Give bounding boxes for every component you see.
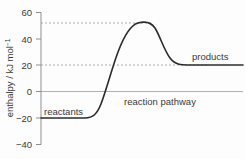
y-axis-title: enthalpy / kJ mol−1 [4,38,16,117]
ytick-label-neg20: −20 [16,113,32,124]
annotation-reactants: reactants [44,106,83,117]
ytick-label-60: 60 [21,7,32,18]
annotation-products: products [192,51,229,62]
svg-text:enthalpy / kJ mol−1: enthalpy / kJ mol−1 [4,38,16,117]
ytick-label-20: 20 [21,60,32,71]
y-axis-title-text: enthalpy / kJ mol [4,46,15,117]
annotation-reaction-pathway: reaction pathway [124,96,196,107]
ytick-label-neg40: −40 [16,139,32,150]
ytick-label-40: 40 [21,34,32,45]
enthalpy-profile-figure: 60 40 20 0 −20 −40 enthalpy / kJ mol−1 r… [0,0,245,159]
chart-canvas: 60 40 20 0 −20 −40 enthalpy / kJ mol−1 r… [0,0,245,159]
y-axis-tick-labels: 60 40 20 0 −20 −40 [16,7,32,150]
y-axis-title-superscript: −1 [4,38,11,46]
y-axis-ticks [36,13,41,145]
ytick-label-0: 0 [27,86,32,97]
